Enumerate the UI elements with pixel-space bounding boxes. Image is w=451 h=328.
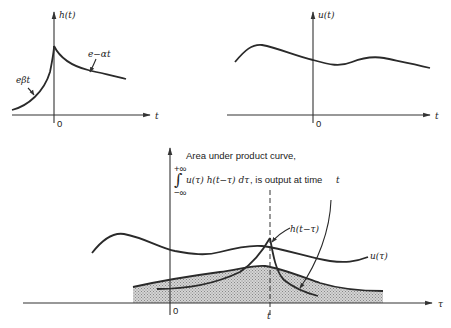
h-origin-label: 0 (57, 118, 62, 129)
integral-lower-limit: −∞ (174, 187, 187, 198)
convolution-diagram: h(t) t 0 eβt e−αt u(t) t 0 h(t−τ) u(τ) τ… (0, 0, 451, 328)
impulse-response-panel: h(t) t 0 eβt e−αt (12, 10, 159, 129)
h-x-label: t (155, 111, 159, 121)
caption-integrand: u(τ) h(t−τ) dτ (186, 175, 250, 185)
caption-suffix: , is output at time (250, 174, 322, 185)
product-panel: h(t−τ) u(τ) τ 0 t Area under product cur… (23, 148, 444, 321)
e-alpha-leader (90, 59, 96, 72)
h-t-minus-tau-leader (272, 228, 290, 242)
caption-time: t (336, 175, 340, 185)
product-origin-label: 0 (173, 305, 178, 316)
u-x-label: t (435, 111, 439, 121)
u-tau-curve (92, 234, 368, 262)
e-beta-leader (28, 88, 34, 95)
u-origin-label: 0 (316, 118, 321, 129)
u-y-label: u(t) (318, 10, 335, 20)
input-signal-panel: u(t) t 0 (227, 10, 439, 129)
t-marker-label: t (267, 311, 271, 321)
tau-axis-label: τ (438, 299, 444, 309)
e-beta-label: eβt (16, 75, 31, 85)
h-t-minus-tau-label: h(t−τ) (290, 224, 319, 234)
h-y-label: h(t) (59, 10, 76, 20)
u-tau-label: u(τ) (370, 251, 388, 261)
caption-line1: Area under product curve, (186, 150, 296, 161)
area-leader (300, 200, 331, 288)
u-curve (235, 45, 430, 68)
e-alpha-label: e−αt (88, 49, 111, 59)
